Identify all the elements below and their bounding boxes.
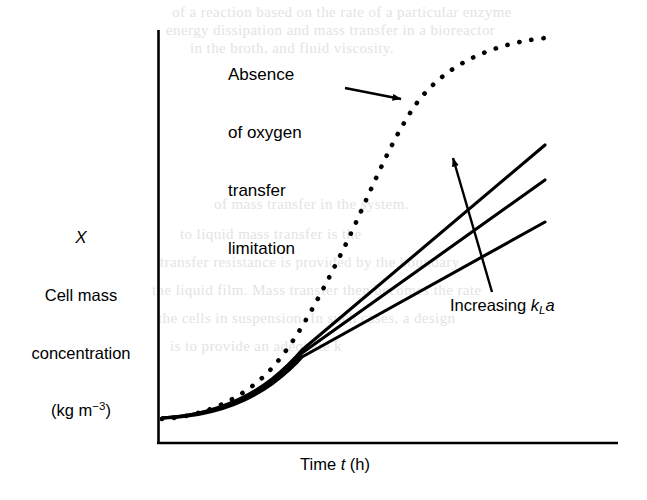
annotation-kla-subscript-l: L: [539, 304, 545, 316]
annotation-absence-line-4: limitation: [228, 239, 302, 258]
series-high-kla: [162, 145, 545, 418]
y-axis-units: (kg m−3): [8, 401, 154, 420]
y-axis-label-line-2: concentration: [8, 344, 154, 363]
y-axis-units-prefix: (kg m: [51, 401, 92, 419]
annotation-absence-line-1: Absence: [228, 65, 302, 84]
x-axis-label: Time t (h): [300, 455, 370, 474]
series-low-kla: [162, 222, 545, 418]
annotation-kla-symbol-k: k: [531, 296, 539, 314]
series-no-oxygen-limitation: [162, 38, 545, 419]
y-axis-units-exponent: −3: [92, 400, 105, 412]
annotation-increasing-prefix: Increasing: [450, 296, 531, 314]
increasing-kla-arrow: [453, 158, 492, 292]
annotation-increasing-kla: Increasing kLa: [450, 296, 555, 315]
y-axis-symbol: X: [8, 228, 154, 248]
figure-container: of a reaction based on the rate of a par…: [0, 0, 647, 500]
annotation-kla-symbol-a: a: [545, 296, 554, 314]
x-axis-label-suffix: (h): [345, 455, 370, 473]
annotation-absence-line-3: transfer: [228, 181, 302, 200]
y-axis-units-suffix: ): [105, 401, 111, 419]
y-axis-label: X Cell mass concentration (kg m−3): [8, 190, 154, 458]
x-axis-label-prefix: Time: [300, 455, 341, 473]
absence-pointer-arrow: [345, 88, 401, 99]
annotation-absence-line-2: of oxygen: [228, 123, 302, 142]
annotation-absence-of-oxygen-transfer-limitation: Absence of oxygen transfer limitation: [228, 26, 302, 297]
y-axis-label-line-1: Cell mass: [8, 286, 154, 305]
